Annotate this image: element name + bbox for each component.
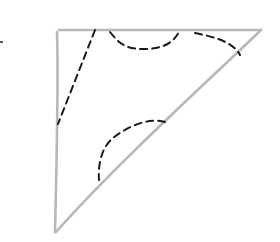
triangle-left-edge	[55, 32, 57, 232]
dashed-curve-left	[58, 30, 95, 124]
triangle-diagram	[0, 0, 280, 242]
edge-mark	[0, 41, 3, 43]
dashed-curve-top-middle	[110, 30, 180, 49]
triangle-hypotenuse	[56, 30, 261, 232]
triangle-outline	[55, 30, 261, 232]
dashed-cut-curves	[58, 30, 240, 180]
dashed-curve-top-right	[195, 33, 240, 55]
